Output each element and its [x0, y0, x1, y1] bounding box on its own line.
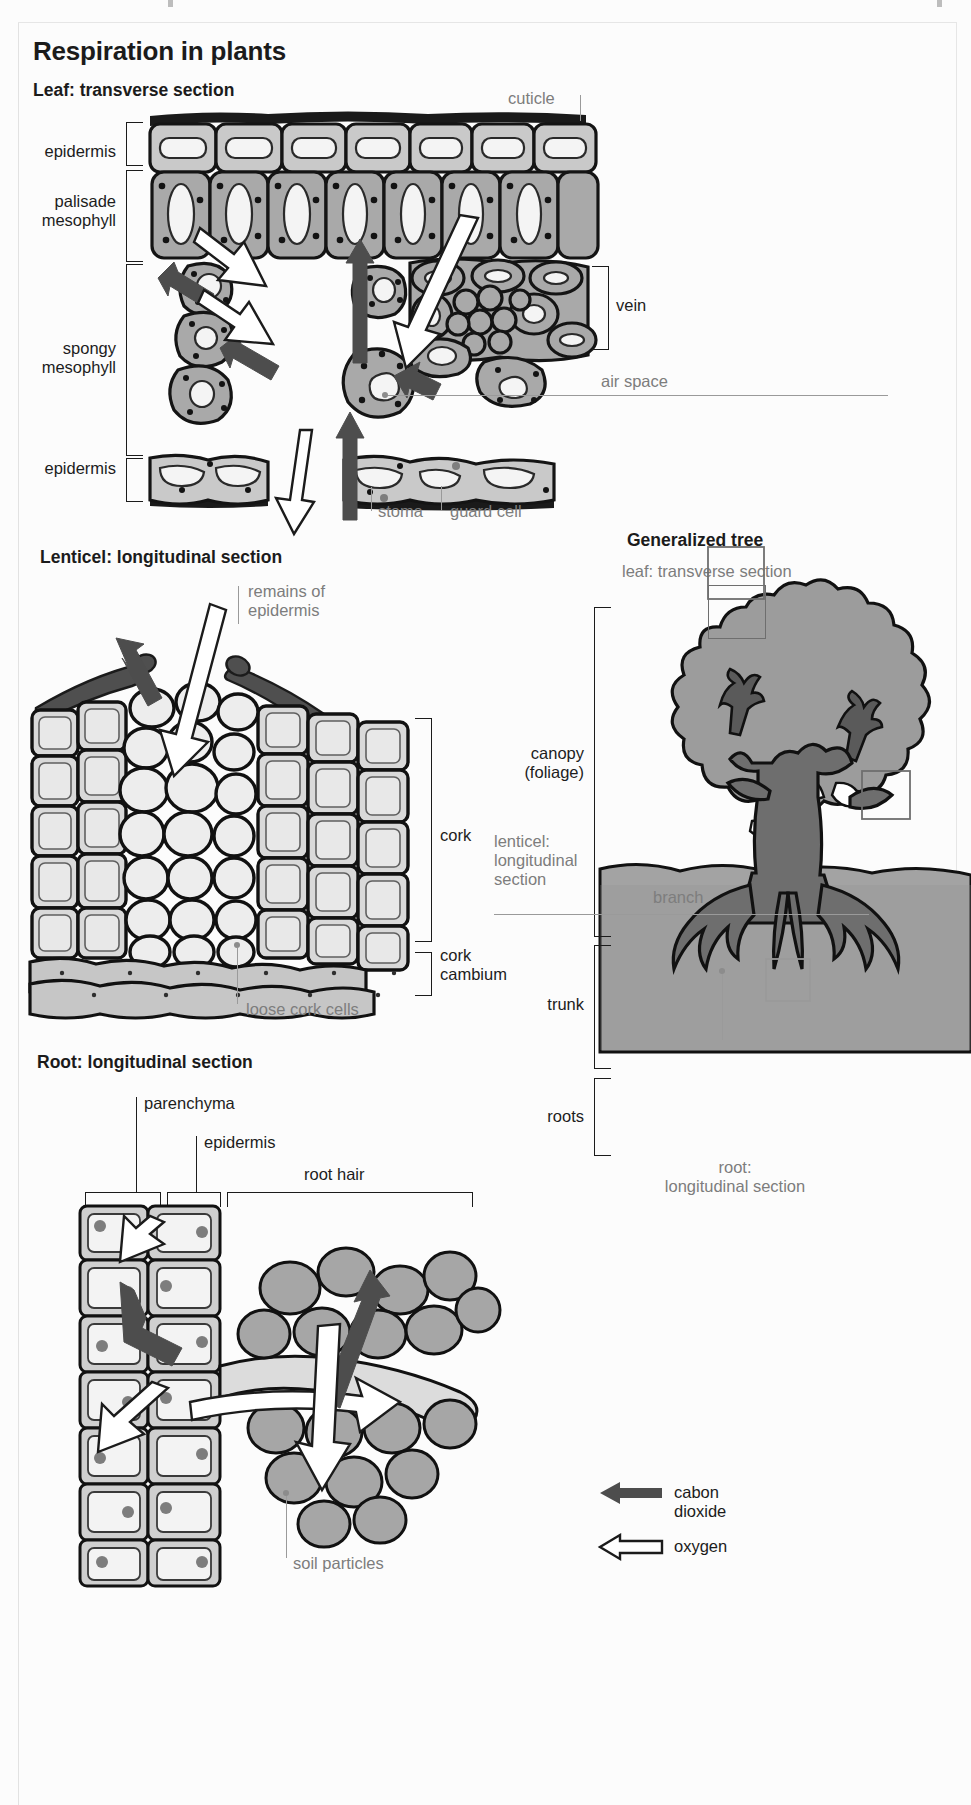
- label-tree-root-line2: longitudinal section: [620, 1177, 850, 1196]
- root-longitudinal-section-figure: .rc{fill:#cfcfcf;stroke:#111111;stroke-w…: [78, 1206, 498, 1586]
- bracket-spongy-mesophyll: [126, 264, 143, 456]
- label-remains-of-epidermis-line1: remains of: [248, 582, 325, 601]
- label-remains-of-epidermis-line2: epidermis: [248, 601, 320, 620]
- section-heading-root: Root: longitudinal section: [37, 1052, 253, 1073]
- lower-epidermis-left: [150, 455, 268, 508]
- label-spongy-mesophyll-line1: spongy: [0, 339, 116, 358]
- section-heading-lenticel: Lenticel: longitudinal section: [40, 547, 282, 568]
- bracket-cork: [415, 718, 432, 942]
- label-cork-cambium-line1: cork: [440, 946, 471, 965]
- label-loose-cork-cells: loose cork cells: [246, 1000, 359, 1019]
- leader-root-epidermis: [196, 1136, 197, 1193]
- legend-item-carbon-dioxide: cabon dioxide: [598, 1478, 664, 1508]
- leader-air-space: [388, 395, 888, 396]
- section-heading-leaf: Leaf: transverse section: [33, 80, 234, 101]
- label-tree-lenticel-line2: longitudinal: [494, 851, 577, 870]
- label-stoma: stoma: [378, 502, 423, 521]
- label-guard-cell: guard cell: [450, 502, 522, 521]
- label-tree-leaf-transverse-section: leaf: transverse section: [622, 562, 792, 581]
- lenticel-longitudinal-section-figure: .ck{fill:#d9d9d9;stroke:#111111;stroke-w…: [30, 580, 430, 1010]
- label-canopy-line2: (foliage): [474, 763, 584, 782]
- label-parenchyma: parenchyma: [144, 1094, 235, 1113]
- label-root-epidermis: epidermis: [204, 1133, 276, 1152]
- leader-parenchyma: [136, 1097, 137, 1193]
- cork-cells-left: [32, 702, 126, 958]
- leader-branch: [722, 974, 723, 1040]
- label-tree-lenticel-line1: lenticel:: [494, 832, 550, 851]
- carbon-dioxide-arrow-icon: [598, 1478, 664, 1508]
- label-spongy-mesophyll-line2: mesophyll: [0, 358, 116, 377]
- crop-tick-right: [937, 0, 942, 7]
- bracket-roots: [594, 1078, 611, 1156]
- label-trunk: trunk: [474, 995, 584, 1014]
- label-cork: cork: [440, 826, 471, 845]
- bracket-root-hair: [227, 1192, 473, 1207]
- bracket-cork-cambium: [415, 952, 432, 996]
- label-tree-lenticel-line3: section: [494, 870, 546, 889]
- label-cork-cambium-line2: cambium: [440, 965, 507, 984]
- crop-tick-left: [168, 0, 173, 7]
- label-palisade-mesophyll-line1: palisade: [0, 192, 116, 211]
- label-canopy-line1: canopy: [474, 744, 584, 763]
- lower-epidermis-right-with-stoma: [344, 456, 554, 510]
- leaf-transverse-section-figure: .wall{fill:#a9a9a9;stroke:#141414;stroke…: [148, 108, 598, 523]
- bracket-epidermis-top: [126, 122, 143, 166]
- bracket-epidermis-bottom: [126, 458, 143, 502]
- leader-stoma: [371, 487, 372, 511]
- label-palisade-mesophyll-line2: mesophyll: [0, 211, 116, 230]
- label-tree-root-line1: root:: [620, 1158, 850, 1177]
- leader-guard-cell: [441, 486, 442, 511]
- legend-label-carbon-dioxide: cabon dioxide: [674, 1483, 726, 1521]
- label-vein: vein: [616, 296, 646, 315]
- leader-soil-particles: [286, 1496, 287, 1558]
- page-title: Respiration in plants: [33, 36, 286, 67]
- card-border-top: [18, 22, 957, 23]
- spongy-mesophyll-cells: [170, 263, 414, 423]
- diagram-page: Respiration in plants Leaf: transverse s…: [0, 0, 971, 1805]
- leader-cuticle: [580, 95, 581, 121]
- label-epidermis-bottom: epidermis: [0, 459, 116, 478]
- label-root-hair: root hair: [304, 1165, 365, 1184]
- bracket-palisade-mesophyll: [126, 170, 143, 262]
- bracket-vein: [592, 266, 609, 350]
- inset-box-leaf-transverse: [708, 585, 766, 639]
- leader-remains-of-epidermis: [238, 586, 239, 624]
- label-branch: branch: [653, 888, 703, 907]
- label-soil-particles: soil particles: [293, 1554, 384, 1573]
- upper-epidermis-cells: [150, 124, 596, 172]
- bracket-trunk: [594, 945, 611, 1069]
- generalized-tree-figure: .can{fill:#9c9c9c;stroke:#111111;stroke-…: [600, 585, 971, 1050]
- card-border-left: [18, 22, 19, 1805]
- label-cuticle: cuticle: [508, 89, 555, 108]
- bracket-canopy: [594, 607, 611, 937]
- label-air-space: air space: [597, 372, 672, 391]
- label-roots: roots: [474, 1107, 584, 1126]
- cork-cells-right: [258, 706, 408, 970]
- oxygen-arrow-icon: [598, 1532, 664, 1562]
- leader-tree-lenticel: [494, 914, 869, 915]
- legend-label-oxygen: oxygen: [674, 1537, 727, 1556]
- label-epidermis-top: epidermis: [0, 142, 116, 161]
- legend-item-oxygen: oxygen: [598, 1532, 664, 1562]
- leader-loose-cork-cells: [237, 948, 238, 1004]
